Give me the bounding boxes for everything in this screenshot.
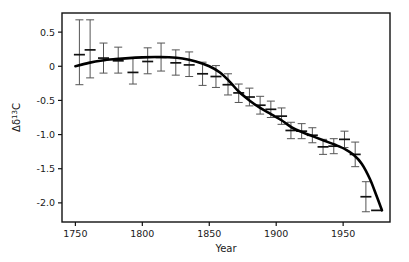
error-bar	[129, 58, 137, 84]
x-tick-label: 1850	[197, 228, 221, 239]
y-tick-label: -1.0	[36, 129, 55, 140]
y-tick-label: -2.0	[36, 197, 55, 208]
x-tick-label: 1750	[63, 228, 87, 239]
figure-container: 17501800185019001950 0.50-0.5-1.0-1.5-2.…	[0, 0, 409, 262]
y-tick-label: -1.5	[36, 163, 55, 174]
x-tick-label: 1900	[264, 228, 288, 239]
trend-curve	[75, 57, 382, 210]
x-axis-title: Year	[214, 243, 237, 254]
y-axis-title: Δδ13C	[11, 103, 23, 132]
error-bar	[86, 20, 94, 78]
errorbars-layer	[75, 20, 369, 212]
chart-canvas: 17501800185019001950 0.50-0.5-1.0-1.5-2.…	[0, 0, 409, 262]
y-axis-tick-labels: 0.50-0.5-1.0-1.5-2.0	[36, 27, 55, 209]
x-tick-label: 1800	[130, 228, 154, 239]
axes-frame	[62, 13, 390, 222]
x-axis-tick-labels: 17501800185019001950	[63, 228, 355, 239]
error-bar	[75, 20, 83, 85]
y-axis-title-text: Δδ13C	[11, 103, 23, 132]
y-tick-label: 0	[49, 61, 55, 72]
y-tick-label: -0.5	[36, 95, 55, 106]
plot-frame	[62, 13, 390, 222]
y-tick-label: 0.5	[40, 27, 55, 38]
x-tick-label: 1950	[331, 228, 355, 239]
